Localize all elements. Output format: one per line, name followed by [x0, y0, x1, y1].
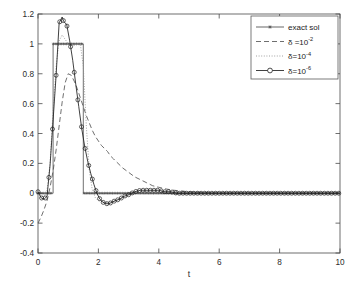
legend-label-exponent: -2	[308, 36, 313, 42]
legend-label: exact sol	[288, 23, 320, 32]
legend-marker-circle	[268, 68, 273, 73]
y-tick-label: 0.6	[23, 100, 35, 109]
y-tick-label: 1.2	[23, 10, 35, 19]
y-tick-label: 0.4	[23, 130, 35, 139]
x-tick-label: 4	[157, 258, 162, 267]
y-tick-label: 1	[29, 40, 34, 49]
chart-canvas: -0.4-0.200.20.40.60.811.2 0246810 t exac…	[0, 0, 355, 290]
y-tick-label: 0.8	[23, 70, 35, 79]
data-point-marker	[42, 192, 45, 195]
y-tick-label: 0.2	[23, 159, 35, 168]
data-point-marker	[108, 192, 111, 195]
legend-marker-star	[268, 25, 272, 29]
data-point-marker	[49, 192, 52, 195]
legend[interactable]: exact solδ =10-2δ=10-4δ=10-6	[251, 16, 338, 79]
figure-container: -0.4-0.200.20.40.60.811.2 0246810 t exac…	[0, 0, 355, 290]
legend-label-exponent: -4	[306, 51, 311, 57]
legend-label-exponent: -6	[306, 65, 311, 71]
x-tick-label: 2	[96, 258, 101, 267]
data-point-marker	[54, 42, 57, 45]
y-tick-label: -0.2	[20, 219, 35, 228]
data-point-marker	[62, 42, 65, 45]
y-tick-label: -0.4	[20, 249, 35, 258]
x-tick-label: 0	[36, 258, 41, 267]
x-tick-label: 10	[335, 258, 345, 267]
x-tick-label: 6	[217, 258, 222, 267]
x-tick-label: 8	[277, 258, 282, 267]
data-point-marker	[60, 42, 63, 45]
data-point-marker	[52, 42, 55, 45]
y-tick-label: 0	[29, 189, 34, 198]
